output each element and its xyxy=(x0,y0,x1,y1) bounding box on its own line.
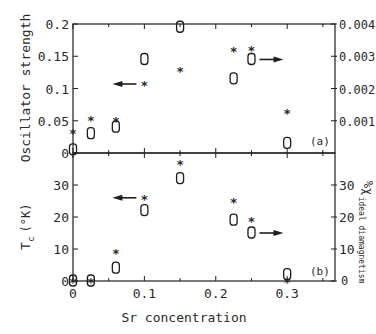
y-tick-label-left: 20 xyxy=(53,210,69,225)
x-tick-label: 0.2 xyxy=(204,286,227,301)
star-marker: * xyxy=(230,195,238,210)
y-tick-label-right: 0.002 xyxy=(339,83,375,97)
zero-marker xyxy=(284,137,291,148)
annotation-arrows xyxy=(112,56,283,236)
arrow-left-icon xyxy=(112,195,122,201)
star-marker: * xyxy=(87,113,95,128)
y-tick-label-left: 0.2 xyxy=(46,17,69,32)
zero-marker xyxy=(87,128,94,139)
zero-marker xyxy=(141,53,148,64)
arrow-left-icon xyxy=(112,81,122,87)
y-tick-label-right: 0.003 xyxy=(339,50,375,64)
panel-label-b: (b) xyxy=(310,265,330,278)
panel-frame-b xyxy=(73,153,335,281)
y-tick-label-left: 0.05 xyxy=(38,114,69,129)
axis-ticks: 00.050.10.150.20.0010.0020.0030.00401020… xyxy=(38,17,375,301)
top-y-axis-label: Oscillator strength xyxy=(18,14,33,163)
zero-marker xyxy=(230,73,237,84)
y-tick-label-right: 0 xyxy=(341,274,348,288)
y-tick-label-left: 0 xyxy=(61,146,69,161)
y-tick-label-left: 0.1 xyxy=(46,82,69,97)
chi-label: %χ xyxy=(361,181,375,195)
tc-label: T xyxy=(18,242,33,250)
y-tick-label-right: 20 xyxy=(339,210,355,225)
star-marker: * xyxy=(176,157,184,172)
bottom-y-axis-label: T c (°K) xyxy=(18,204,36,250)
zero-marker xyxy=(177,173,184,184)
y-tick-label-left: 30 xyxy=(53,178,69,193)
star-marker: * xyxy=(176,64,184,79)
star-marker: * xyxy=(140,78,148,93)
y-tick-label-right: 0.004 xyxy=(339,18,375,32)
bottom-right-y-axis-label: %χ ideal diamagnetism xyxy=(357,181,375,284)
y-tick-label-left: 0 xyxy=(61,274,69,289)
panel-frame-a xyxy=(73,24,335,153)
zero-marker xyxy=(112,262,119,273)
star-marker: * xyxy=(69,126,77,141)
zero-marker xyxy=(230,214,237,225)
plot-frames xyxy=(73,24,335,281)
x-tick-label: 0.1 xyxy=(133,286,156,301)
tc-unit: (°K) xyxy=(19,204,33,233)
y-tick-label-right: 30 xyxy=(339,178,355,193)
panel-label-a: (a) xyxy=(310,135,330,148)
star-marker: * xyxy=(230,44,238,59)
arrow-right-icon xyxy=(273,230,283,236)
tc-subscript: c xyxy=(26,236,36,241)
star-marker: * xyxy=(283,106,291,121)
star-marker: * xyxy=(112,246,120,261)
y-tick-label-right: 0.001 xyxy=(339,115,375,129)
y-tick-label-left: 10 xyxy=(53,242,69,257)
x-axis-label: Sr concentration xyxy=(121,310,246,325)
data-points: **************** xyxy=(69,21,291,290)
y-tick-label-right: 10 xyxy=(339,242,355,257)
arrow-right-icon xyxy=(273,56,283,62)
figure: 00.050.10.150.20.0010.0020.0030.00401020… xyxy=(0,0,376,334)
y-tick-label-left: 0.15 xyxy=(38,49,69,64)
chi-subscript: ideal diamagnetism xyxy=(357,197,366,284)
